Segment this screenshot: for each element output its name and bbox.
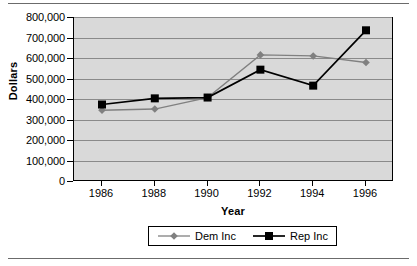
data-point-rep-inc — [204, 94, 212, 102]
y-axis-tick-label: 400,000 — [26, 94, 65, 105]
x-axis-tick-label: 1996 — [353, 188, 377, 199]
series-line-dem-inc — [102, 55, 366, 110]
chart-legend: Dem IncRep Inc — [148, 226, 337, 246]
plot-area — [73, 17, 393, 181]
y-axis-tick-label: 600,000 — [26, 53, 65, 64]
x-axis-tick-label: 1990 — [194, 188, 218, 199]
x-axis-tick-mark — [259, 181, 260, 186]
legend-label: Dem Inc — [195, 230, 236, 242]
x-axis-tick-label: 1986 — [89, 188, 113, 199]
x-axis-ticks: 198619881990199219941996 — [73, 181, 393, 207]
y-axis-tick-label: 500,000 — [26, 73, 65, 84]
data-point-dem-inc — [362, 59, 370, 67]
series-line-rep-inc — [102, 30, 366, 104]
x-axis-tick-mark — [101, 181, 102, 186]
data-point-rep-inc — [362, 26, 370, 34]
y-axis-tick-label: 0 — [59, 176, 65, 187]
x-axis-tick-label: 1992 — [247, 188, 271, 199]
x-axis-tick-label: 1994 — [300, 188, 324, 199]
data-point-rep-inc — [256, 66, 264, 74]
legend-square-marker-icon — [252, 230, 286, 242]
x-axis-tick-mark — [312, 181, 313, 186]
series-layer — [74, 18, 394, 182]
y-axis-tick-label: 800,000 — [26, 12, 65, 23]
x-axis-title: Year — [73, 205, 393, 217]
y-axis-tick-label: 700,000 — [26, 32, 65, 43]
data-point-dem-inc — [151, 105, 159, 113]
y-axis-ticks: 0100,000200,000300,000400,000500,000600,… — [0, 0, 73, 182]
y-axis-tick-label: 100,000 — [26, 155, 65, 166]
legend-diamond-marker-icon — [157, 230, 191, 242]
y-axis-tick-label: 200,000 — [26, 135, 65, 146]
chart-page: Dollars 0100,000200,000300,000400,000500… — [0, 0, 417, 266]
x-axis-tick-mark — [154, 181, 155, 186]
data-point-rep-inc — [309, 82, 317, 90]
bottom-divider-rule — [8, 258, 409, 259]
legend-label: Rep Inc — [290, 230, 328, 242]
y-axis-tick-label: 300,000 — [26, 114, 65, 125]
x-axis-tick-mark — [207, 181, 208, 186]
data-point-rep-inc — [151, 94, 159, 102]
data-point-dem-inc — [309, 52, 317, 60]
legend-item-dem-inc[interactable]: Dem Inc — [157, 230, 236, 242]
legend-item-rep-inc[interactable]: Rep Inc — [252, 230, 328, 242]
line-chart: Dollars 0100,000200,000300,000400,000500… — [0, 0, 417, 266]
x-axis-tick-mark — [365, 181, 366, 186]
x-axis-tick-label: 1988 — [142, 188, 166, 199]
data-point-rep-inc — [98, 101, 106, 109]
